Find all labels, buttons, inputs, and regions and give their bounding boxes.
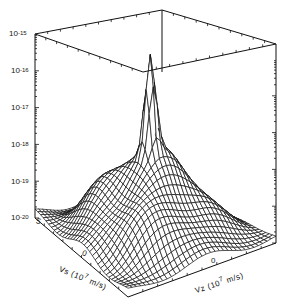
z-tick-label: 10-18 bbox=[11, 141, 29, 149]
vz-tick-label: 0 bbox=[211, 257, 215, 265]
z-tick-label: 10-19 bbox=[11, 178, 29, 186]
surface-plot: 10-15 10-16 10-17 10-18 10-19 10-20 DIST… bbox=[0, 0, 282, 307]
z-tick-label: 10-16 bbox=[11, 67, 29, 75]
z-tick-label: 10-17 bbox=[11, 104, 29, 112]
z-tick-label: 10-15 bbox=[9, 30, 27, 38]
z-tick-label: 10-20 bbox=[11, 214, 29, 222]
wireframe-surface bbox=[35, 55, 276, 289]
plot-canvas bbox=[0, 0, 282, 307]
